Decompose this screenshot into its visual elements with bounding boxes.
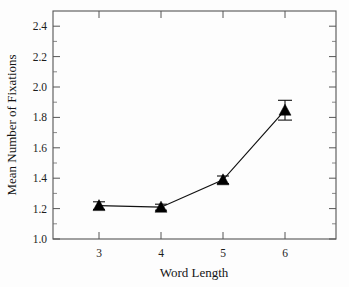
y-axis-title: Mean Number of Fixations	[4, 54, 19, 195]
x-tick-label: 6	[282, 247, 288, 259]
y-tick-label: 1.8	[33, 111, 48, 123]
y-tick-label: 1.6	[33, 142, 48, 154]
y-tick-label: 1.2	[33, 203, 48, 215]
y-tick-label: 1.4	[33, 172, 48, 184]
x-tick-label: 3	[96, 247, 102, 259]
y-tick-label: 2.2	[33, 51, 48, 63]
x-axis-title: Word Length	[160, 265, 229, 280]
y-tick-label: 2.0	[33, 81, 48, 93]
line-chart: 1.0 1.2 1.4 1.6 1.8 2.0 2.2 2.4 3 4 5 6	[0, 0, 349, 287]
y-tick-label: 1.0	[33, 233, 48, 245]
x-tick-label: 5	[220, 247, 226, 259]
chart-figure: 1.0 1.2 1.4 1.6 1.8 2.0 2.2 2.4 3 4 5 6	[0, 0, 349, 287]
chart-background	[0, 0, 349, 287]
y-tick-label: 2.4	[33, 20, 48, 32]
x-tick-label: 4	[158, 247, 164, 259]
